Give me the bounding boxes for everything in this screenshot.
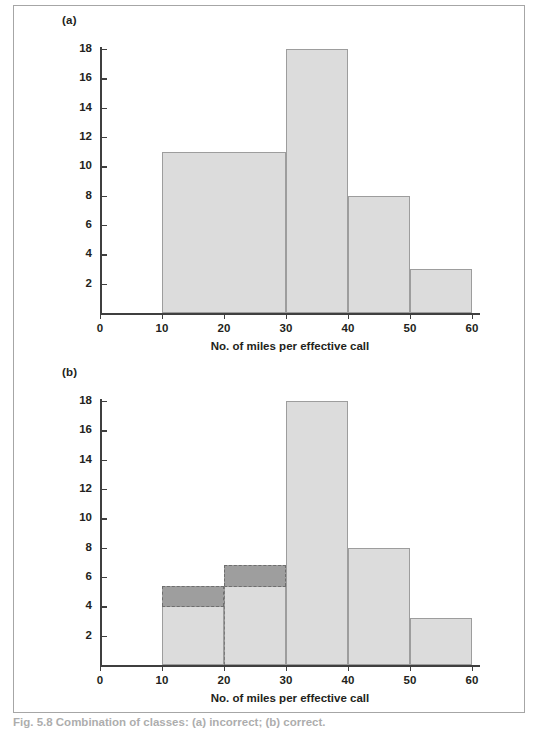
y-tick-2-a (101, 284, 107, 285)
y-tick-label-12-a: 12 (66, 130, 92, 142)
y-tick-6-a (101, 225, 107, 226)
plot-area-a: 010203040506024681012141618No. of miles … (14, 6, 526, 360)
y-tick-label-6-a: 6 (66, 218, 92, 230)
figure-caption: Fig. 5.8 Combination of classes: (a) inc… (13, 716, 525, 728)
y-tick-label-2-b: 2 (66, 629, 92, 641)
y-tick-label-16-b: 16 (66, 423, 92, 435)
x-tick-label-10-a: 10 (142, 322, 182, 334)
histogram-bar (410, 269, 472, 313)
y-tick-label-8-b: 8 (66, 541, 92, 553)
x-tick-label-30-b: 30 (266, 674, 306, 686)
x-tick-label-40-a: 40 (328, 322, 368, 334)
y-tick-label-14-b: 14 (66, 453, 92, 465)
histogram-bar (286, 49, 348, 313)
class-boundary-dashed-line (224, 586, 225, 665)
histogram-bar (162, 152, 286, 313)
x-tick-label-60-a: 60 (452, 322, 492, 334)
histogram-bar (410, 618, 472, 665)
x-tick-label-30-a: 30 (266, 322, 306, 334)
y-tick-label-4-b: 4 (66, 599, 92, 611)
y-tick-label-6-b: 6 (66, 570, 92, 582)
y-tick-label-18-b: 18 (66, 394, 92, 406)
x-tick-label-50-a: 50 (390, 322, 430, 334)
y-tick-12-b (101, 489, 107, 490)
x-tick-label-20-b: 20 (204, 674, 244, 686)
histogram-bar (348, 548, 410, 665)
histogram-bar (348, 196, 410, 313)
y-tick-2-b (101, 636, 107, 637)
y-tick-16-a (101, 78, 107, 79)
figure-frame: (a) 010203040506024681012141618No. of mi… (13, 5, 525, 713)
y-axis-line-b (100, 399, 102, 667)
x-axis-line-b (100, 665, 480, 667)
y-tick-label-10-b: 10 (66, 511, 92, 523)
y-tick-10-b (101, 518, 107, 519)
y-tick-label-8-a: 8 (66, 189, 92, 201)
histogram-bar (162, 606, 224, 665)
plot-area-b: 010203040506024681012141618No. of miles … (14, 358, 526, 712)
x-tick-label-0-a: 0 (80, 322, 120, 334)
x-axis-title-a: No. of miles per effective call (100, 340, 480, 352)
overlay-dashed-baseline (162, 606, 224, 607)
y-tick-8-b (101, 548, 107, 549)
y-tick-label-18-a: 18 (66, 42, 92, 54)
y-tick-18-b (101, 401, 107, 402)
overlay-block (224, 565, 286, 586)
x-tick-label-60-b: 60 (452, 674, 492, 686)
y-tick-16-b (101, 430, 107, 431)
y-tick-label-2-a: 2 (66, 277, 92, 289)
y-tick-8-a (101, 196, 107, 197)
x-tick-label-0-b: 0 (80, 674, 120, 686)
y-tick-6-b (101, 577, 107, 578)
x-tick-label-40-b: 40 (328, 674, 368, 686)
chart-panel-a: (a) 010203040506024681012141618No. of mi… (14, 6, 526, 360)
x-tick-label-50-b: 50 (390, 674, 430, 686)
x-tick-label-10-b: 10 (142, 674, 182, 686)
y-tick-label-14-a: 14 (66, 101, 92, 113)
y-tick-label-16-a: 16 (66, 71, 92, 83)
overlay-block (162, 586, 224, 607)
y-tick-14-b (101, 460, 107, 461)
x-tick-label-20-a: 20 (204, 322, 244, 334)
x-axis-line-a (100, 313, 480, 315)
y-tick-14-a (101, 108, 107, 109)
y-tick-4-b (101, 606, 107, 607)
chart-panel-b: (b) 010203040506024681012141618No. of mi… (14, 358, 526, 712)
y-tick-label-10-a: 10 (66, 159, 92, 171)
y-tick-label-12-b: 12 (66, 482, 92, 494)
histogram-bar (224, 586, 286, 665)
y-tick-label-4-a: 4 (66, 247, 92, 259)
x-axis-title-b: No. of miles per effective call (100, 692, 480, 704)
y-tick-4-a (101, 254, 107, 255)
y-tick-12-a (101, 137, 107, 138)
y-tick-18-a (101, 49, 107, 50)
histogram-bar (286, 401, 348, 665)
y-tick-10-a (101, 166, 107, 167)
overlay-dashed-baseline (224, 586, 286, 587)
y-axis-line-a (100, 47, 102, 315)
